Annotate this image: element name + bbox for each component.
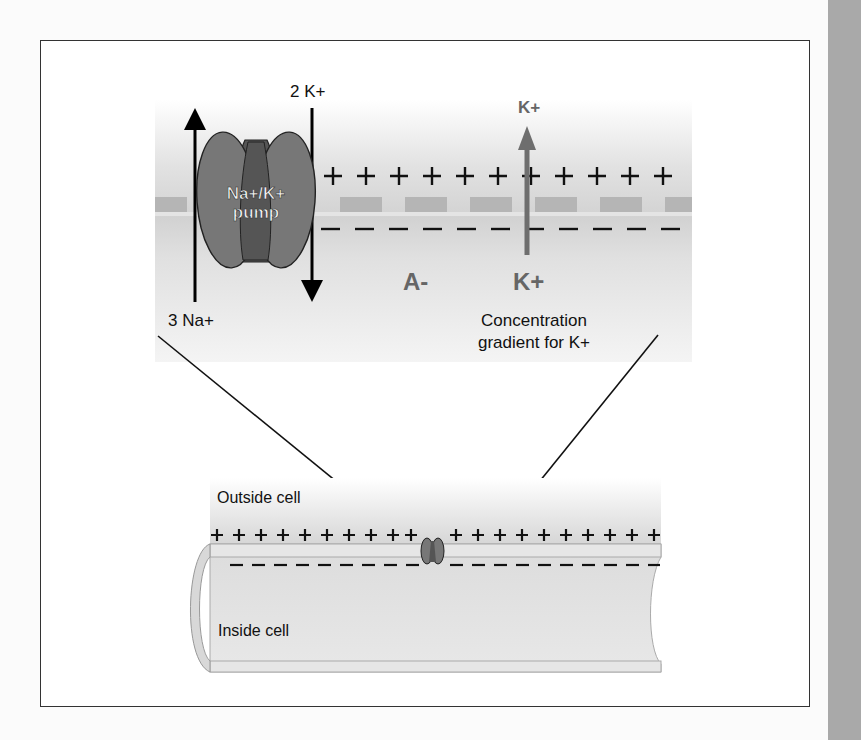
gradient-label-line1: Concentration: [481, 311, 587, 330]
potassium-influx-label: 2 K+: [290, 82, 326, 101]
outside-cell-label: Outside cell: [217, 489, 301, 506]
inside-cell-label: Inside cell: [218, 622, 289, 639]
tube-end-cap: [190, 544, 210, 672]
sodium-efflux-label: 3 Na+: [168, 311, 214, 330]
potassium-outside-label: K+: [518, 98, 540, 117]
diagram-canvas: Na+/K+ pump 3 Na+ 2 K+ K+ K+ A- Concentr…: [0, 0, 861, 740]
lower-membrane-bottom: [210, 661, 661, 672]
gradient-label-line2: gradient for K+: [478, 333, 590, 352]
potassium-inside-label: K+: [513, 268, 544, 295]
small-sodium-potassium-pump: [421, 538, 444, 564]
sodium-potassium-pump: Na+/K+ pump: [192, 130, 319, 270]
lower-panel: Outside cell Inside cell: [190, 478, 661, 672]
pump-label-line2: pump: [233, 203, 279, 222]
upper-panel: Na+/K+ pump 3 Na+ 2 K+ K+ K+ A- Concentr…: [155, 82, 692, 362]
pump-label-line1: Na+/K+: [227, 184, 286, 203]
anion-label: A-: [403, 268, 428, 295]
